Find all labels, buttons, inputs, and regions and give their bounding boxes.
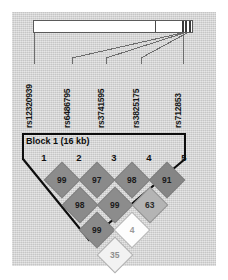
ld-cell-value: 63 — [145, 201, 154, 210]
ld-cell-value: 98 — [127, 176, 136, 185]
ld-cell-value: 99 — [57, 176, 66, 185]
block-1-label: Block 1 (16 kb) — [26, 136, 90, 146]
ld-cell-value: 35 — [110, 251, 119, 260]
column-number-3: 3 — [107, 152, 121, 163]
ld-cell-value: 99 — [110, 201, 119, 210]
ld-plot-figure: rs12320939 rs6486795 rs3741595 rs3825175… — [0, 0, 228, 280]
ld-cell-value: 99 — [92, 226, 101, 235]
ld-cell-value: 4 — [130, 226, 135, 235]
column-number-2: 2 — [72, 152, 86, 163]
column-number-5: 5 — [177, 152, 191, 163]
ld-cell-value: 91 — [162, 176, 171, 185]
ld-cell-value: 97 — [92, 176, 101, 185]
ld-cell-value: 98 — [75, 201, 84, 210]
column-number-1: 1 — [37, 152, 51, 163]
column-number-4: 4 — [142, 152, 156, 163]
